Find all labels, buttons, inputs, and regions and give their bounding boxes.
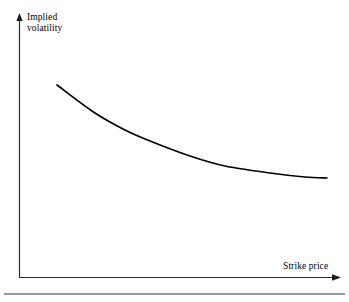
implied-volatility-figure: Figure Implied volatility equity options… [0,0,349,302]
bottom-horizontal-rule [4,293,345,295]
x-axis-label: Strike price [283,261,328,272]
y-axis-group [16,13,22,278]
y-axis-label: Implied volatility [27,12,62,33]
implied-volatility-curve [57,85,327,178]
x-axis-arrowhead-icon [332,274,341,281]
y-axis-arrowhead-icon [16,13,22,21]
x-axis-group [19,274,341,281]
plot-canvas [0,0,349,302]
